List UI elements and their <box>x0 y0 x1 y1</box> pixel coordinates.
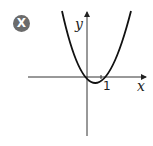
y-axis-label: y <box>75 17 83 31</box>
x-axis-label: x <box>137 79 145 93</box>
parabola-curve <box>62 11 131 83</box>
tick-label-1: 1 <box>103 80 111 92</box>
